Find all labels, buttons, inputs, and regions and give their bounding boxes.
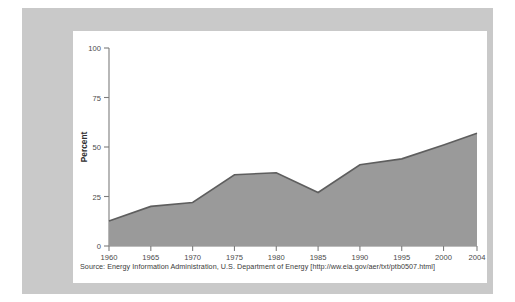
y-axis-label: Percent (79, 131, 89, 162)
x-tick-label: 1970 (184, 253, 201, 262)
area-series-fill (109, 133, 477, 246)
area-chart: 100 75 50 25 0 Percent 19601965197019751… (73, 31, 487, 283)
y-tick-label: 100 (88, 44, 101, 53)
y-axis-ticks (104, 48, 109, 246)
x-tick-label: 1965 (142, 253, 159, 262)
x-axis-ticks (109, 246, 477, 251)
source-note: Source: Energy Information Administratio… (80, 262, 480, 271)
x-tick-label: 1980 (268, 253, 285, 262)
screenshot-root: 100 75 50 25 0 Percent 19601965197019751… (0, 0, 515, 302)
x-tick-label: 1995 (393, 253, 410, 262)
chart-card: 100 75 50 25 0 Percent 19601965197019751… (73, 31, 487, 283)
x-tick-label: 2000 (435, 253, 452, 262)
chart-mat-border: 100 75 50 25 0 Percent 19601965197019751… (22, 8, 493, 294)
x-tick-label: 1960 (101, 253, 118, 262)
x-axis-tick-labels: 1960196519701975198019851990199520002004 (101, 253, 486, 262)
y-tick-label: 25 (93, 193, 101, 202)
y-axis-tick-labels: 100 75 50 25 0 (88, 44, 101, 251)
y-tick-label: 0 (97, 242, 101, 251)
x-tick-label: 2004 (469, 253, 486, 262)
y-tick-label: 50 (93, 143, 101, 152)
y-tick-label: 75 (93, 94, 101, 103)
x-tick-label: 1975 (226, 253, 243, 262)
x-tick-label: 1990 (351, 253, 368, 262)
x-tick-label: 1985 (310, 253, 327, 262)
chart-svg: 100 75 50 25 0 Percent 19601965197019751… (73, 31, 487, 283)
